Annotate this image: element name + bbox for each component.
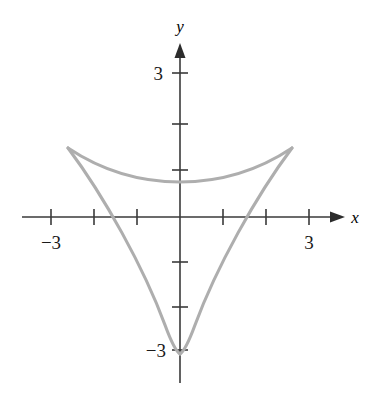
- coordinate-plane-plot: x y −3 3 3 −3: [0, 0, 388, 401]
- x-tick-label--3: −3: [41, 232, 61, 253]
- curve-right-branch: [180, 148, 292, 354]
- graph-figure: x y −3 3 3 −3: [0, 0, 388, 401]
- y-tick-label--3: −3: [146, 340, 166, 361]
- x-axis-arrowhead: [330, 212, 345, 223]
- y-axis-arrowhead: [175, 43, 186, 58]
- x-axis-label: x: [350, 208, 359, 227]
- y-axis-label: y: [174, 17, 184, 36]
- y-tick-label-3: 3: [154, 63, 164, 84]
- x-tick-label-3: 3: [304, 232, 314, 253]
- curve-left-branch: [68, 148, 180, 354]
